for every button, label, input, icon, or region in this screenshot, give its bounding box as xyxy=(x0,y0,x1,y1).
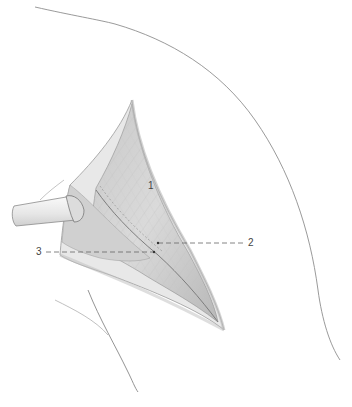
skin-fold-lower xyxy=(88,290,138,392)
label-2: 2 xyxy=(248,238,254,248)
illustration-canvas xyxy=(0,0,352,407)
label-3: 3 xyxy=(36,247,42,257)
label-1: 1 xyxy=(148,181,154,191)
skin-fold-left xyxy=(40,180,64,200)
